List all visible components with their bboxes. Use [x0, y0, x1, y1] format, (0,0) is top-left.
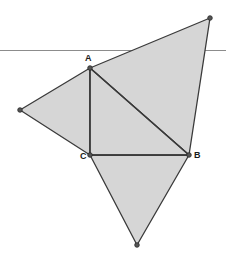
- vertex-label-a: A: [85, 54, 92, 63]
- geometry-figure-canvas: A B C: [0, 0, 226, 269]
- vertex-point-a[interactable]: [88, 66, 93, 71]
- left-triangle[interactable]: [20, 68, 90, 155]
- vertex-point-f-bottom[interactable]: [135, 243, 140, 248]
- vertex-point-e-left[interactable]: [18, 108, 23, 113]
- vertex-point-d-top-right[interactable]: [208, 16, 213, 21]
- vertex-label-c: C: [80, 152, 87, 161]
- vertex-label-b: B: [194, 151, 201, 160]
- vertex-point-b[interactable]: [187, 153, 192, 158]
- bottom-triangle[interactable]: [90, 155, 189, 245]
- geometry-drawing: [0, 0, 226, 269]
- vertex-point-c[interactable]: [88, 153, 93, 158]
